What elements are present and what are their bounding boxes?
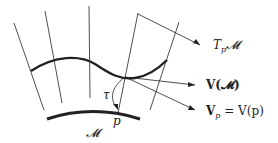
arrowhead-vector-at-p [188, 105, 195, 110]
arrowhead-tangent-space [193, 39, 200, 45]
label-manifold: 𝓜 [86, 126, 99, 140]
fiber-line-4 [118, 13, 138, 113]
label-tau: τ [103, 88, 110, 102]
label-vector-field: V(𝓜) [206, 78, 240, 92]
tangent-plane-edge [150, 22, 179, 110]
fiber-bundle-diagram: Tp𝓜 V(𝓜) Vp = V(p) τ p 𝓜 [0, 0, 278, 143]
fiber-line-2 [45, 11, 62, 103]
fiber-line-3 [89, 6, 90, 98]
label-vector-at-p: Vp = V(p) [206, 104, 264, 120]
arrow-vector-at-p [125, 77, 195, 110]
diagram-canvas [0, 0, 278, 143]
tau-arrow [112, 77, 125, 108]
arrow-tangent-space [138, 14, 200, 45]
label-tangent-space: Tp𝓜 [213, 38, 239, 54]
arrowhead-tau [113, 104, 118, 110]
section-curve [31, 58, 167, 78]
label-point-p: p [113, 114, 121, 128]
manifold-curve [47, 111, 140, 119]
